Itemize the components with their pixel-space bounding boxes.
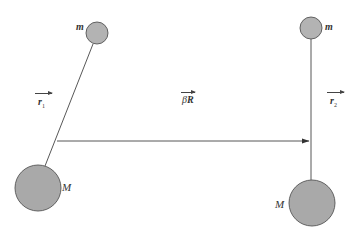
left-rod [45, 44, 93, 166]
left-large-mass [15, 165, 61, 211]
left-small-mass-label: m [76, 22, 84, 32]
beta-r-label: βR [182, 95, 194, 105]
right-large-mass [289, 180, 335, 226]
r-symbol: R [187, 94, 194, 105]
r1-subscript: 1 [42, 103, 45, 109]
r2-overarrow-icon [327, 92, 344, 93]
right-small-mass-label: m [325, 22, 333, 32]
r2-subscript: 2 [334, 102, 337, 108]
right-small-mass [300, 17, 322, 39]
right-large-mass-label: M [275, 199, 284, 210]
pendulum-diagram [0, 0, 354, 240]
r1-label: r1 [38, 97, 45, 109]
left-large-mass-label: M [62, 182, 71, 193]
left-small-mass [86, 22, 108, 44]
r1-overarrow-icon [35, 93, 52, 94]
r2-label: r2 [330, 96, 337, 108]
beta-r-overarrow-icon [181, 92, 195, 93]
